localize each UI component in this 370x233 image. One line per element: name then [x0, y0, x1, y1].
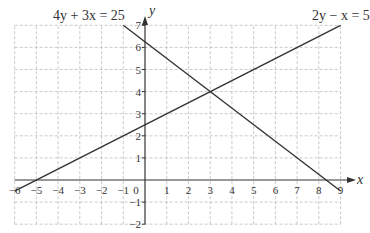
linear-equations-graph: −6−5−4−3−2−10123456789−2−11234567 y x 4y…: [0, 0, 370, 233]
tick-labels: −6−5−4−3−2−10123456789−2−11234567: [9, 19, 344, 230]
x-tick-label: −6: [9, 184, 21, 196]
x-tick-label: −2: [96, 184, 108, 196]
equation-label-line1: 4y + 3x = 25: [53, 8, 125, 23]
y-tick-label: 1: [136, 152, 142, 164]
y-tick-label: 2: [136, 130, 142, 142]
x-tick-label: 6: [273, 184, 279, 196]
x-tick-label: 2: [186, 184, 192, 196]
x-tick-label: 8: [316, 184, 322, 196]
x-tick-label: 0: [133, 184, 139, 196]
x-tick-label: −1: [117, 184, 129, 196]
x-tick-label: 5: [251, 184, 257, 196]
y-tick-label: 7: [136, 19, 142, 31]
x-tick-label: −4: [52, 184, 64, 196]
x-tick-label: 3: [207, 184, 213, 196]
y-axis-label: y: [147, 3, 156, 18]
y-tick-label: 3: [136, 108, 142, 120]
equation-label-line2: 2y − x = 5: [312, 8, 370, 23]
x-axis-label: x: [356, 172, 364, 187]
x-tick-label: 4: [229, 184, 235, 196]
equation-lines: [15, 25, 341, 191]
x-axis-arrow-icon: [347, 177, 356, 183]
x-tick-label: −3: [74, 184, 86, 196]
y-tick-label: 4: [136, 86, 142, 98]
y-tick-label: −2: [129, 218, 141, 230]
y-axis-arrow-icon: [142, 16, 148, 25]
y-tick-label: 5: [136, 64, 142, 76]
x-tick-label: 1: [164, 184, 170, 196]
equation-line-1: [123, 25, 340, 191]
y-tick-label: −1: [129, 196, 141, 208]
y-tick-label: 6: [136, 41, 142, 53]
equation-line-2: [15, 25, 341, 191]
x-tick-label: 7: [294, 184, 300, 196]
x-tick-label: −5: [30, 184, 42, 196]
